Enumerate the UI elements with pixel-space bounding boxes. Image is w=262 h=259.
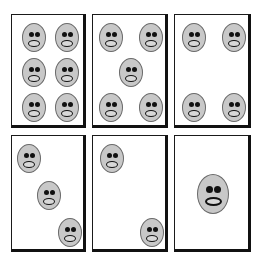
eye-icon <box>132 67 137 72</box>
face-icon <box>55 93 79 122</box>
mouth-icon <box>228 40 240 47</box>
eye-icon <box>50 190 55 195</box>
eye-icon <box>147 227 152 232</box>
face-icon <box>55 23 79 52</box>
face-icon <box>182 93 206 122</box>
face-icon <box>197 174 229 214</box>
mouth-icon <box>28 40 40 47</box>
eye-icon <box>71 227 76 232</box>
eye-icon <box>235 32 240 37</box>
eye-icon <box>30 153 35 158</box>
face-icon <box>139 93 163 122</box>
eye-icon <box>112 32 117 37</box>
eye-icon <box>107 153 112 158</box>
mouth-icon <box>61 40 73 47</box>
eye-icon <box>152 32 157 37</box>
mouth-icon <box>145 110 157 117</box>
eye-icon <box>35 32 40 37</box>
face-icon <box>222 93 246 122</box>
eye-icon <box>195 32 200 37</box>
card-5 <box>92 14 168 128</box>
mouth-icon <box>205 197 222 206</box>
card-2 <box>92 135 168 252</box>
face-icon <box>22 93 46 122</box>
eye-icon <box>235 102 240 107</box>
face-icon <box>182 23 206 52</box>
mouth-icon <box>146 235 158 242</box>
card-3 <box>11 135 86 252</box>
eye-icon <box>68 67 73 72</box>
mouth-icon <box>188 110 200 117</box>
face-icon <box>22 58 46 87</box>
eye-icon <box>214 186 221 193</box>
eye-icon <box>68 102 73 107</box>
face-icon <box>58 218 82 247</box>
eye-icon <box>189 32 194 37</box>
eye-icon <box>44 190 49 195</box>
face-icon <box>37 181 61 210</box>
mouth-icon <box>106 161 118 168</box>
eye-icon <box>229 102 234 107</box>
face-icon <box>17 144 41 173</box>
mouth-icon <box>61 110 73 117</box>
mouth-icon <box>23 161 35 168</box>
card-6 <box>11 14 86 128</box>
face-icon <box>140 218 164 247</box>
eye-icon <box>35 67 40 72</box>
face-icon <box>99 23 123 52</box>
eye-icon <box>153 227 158 232</box>
card-4 <box>174 14 251 128</box>
mouth-icon <box>105 40 117 47</box>
eye-icon <box>229 32 234 37</box>
eye-icon <box>152 102 157 107</box>
eye-icon <box>112 102 117 107</box>
mouth-icon <box>105 110 117 117</box>
eye-icon <box>29 67 34 72</box>
eye-icon <box>113 153 118 158</box>
eye-icon <box>195 102 200 107</box>
face-icon <box>99 93 123 122</box>
card-1 <box>174 135 251 252</box>
face-icon <box>222 23 246 52</box>
eye-icon <box>146 102 151 107</box>
eye-icon <box>29 32 34 37</box>
eye-icon <box>68 32 73 37</box>
eye-icon <box>65 227 70 232</box>
mouth-icon <box>28 110 40 117</box>
face-icon <box>100 144 124 173</box>
eye-icon <box>126 67 131 72</box>
mouth-icon <box>61 75 73 82</box>
eye-icon <box>62 32 67 37</box>
face-icon <box>55 58 79 87</box>
mouth-icon <box>188 40 200 47</box>
face-icon <box>119 58 143 87</box>
face-icon <box>139 23 163 52</box>
eye-icon <box>206 186 213 193</box>
eye-icon <box>106 102 111 107</box>
eye-icon <box>24 153 29 158</box>
mouth-icon <box>43 198 55 205</box>
mouth-icon <box>228 110 240 117</box>
eye-icon <box>106 32 111 37</box>
eye-icon <box>29 102 34 107</box>
eye-icon <box>62 102 67 107</box>
eye-icon <box>146 32 151 37</box>
mouth-icon <box>28 75 40 82</box>
mouth-icon <box>125 75 137 82</box>
eye-icon <box>35 102 40 107</box>
mouth-icon <box>64 235 76 242</box>
mouth-icon <box>145 40 157 47</box>
eye-icon <box>62 67 67 72</box>
face-icon <box>22 23 46 52</box>
eye-icon <box>189 102 194 107</box>
